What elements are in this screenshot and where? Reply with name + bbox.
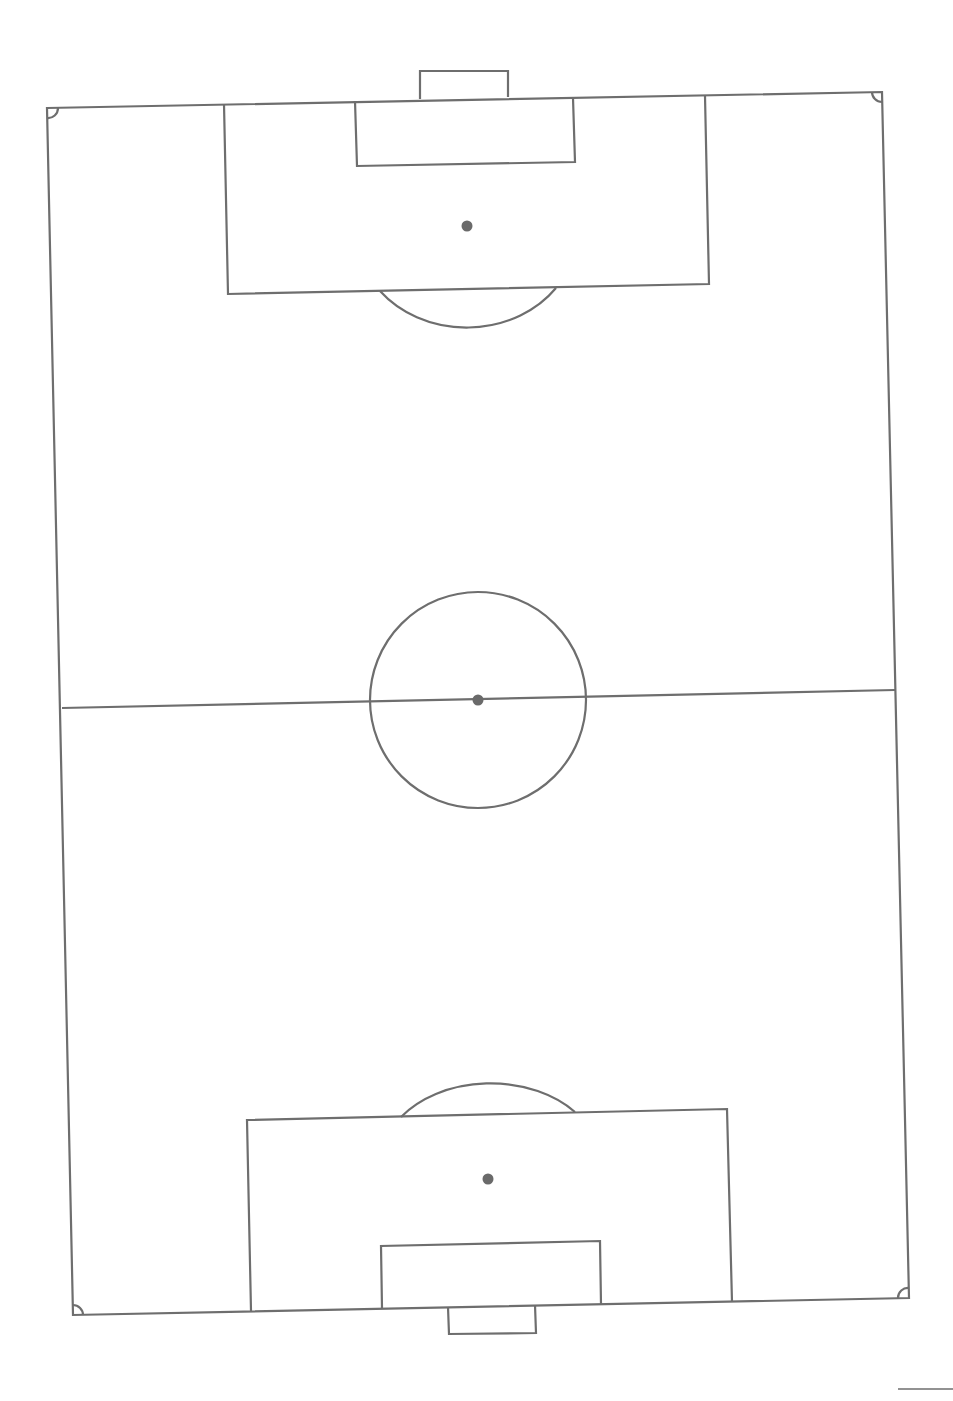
top-penalty-area <box>224 96 709 294</box>
bottom-goal-area <box>381 1241 601 1308</box>
corner-arc-bottom-left <box>73 1305 83 1315</box>
corner-arc-top-left <box>47 108 58 118</box>
bottom-penalty-arc <box>401 1083 575 1117</box>
bottom-penalty-area <box>247 1109 732 1311</box>
top-goal-area <box>355 98 575 166</box>
center-spot <box>473 695 484 706</box>
top-goal <box>420 71 508 99</box>
corner-arc-bottom-right <box>898 1288 909 1298</box>
bottom-penalty-spot <box>483 1174 494 1185</box>
bottom-goal <box>448 1305 536 1334</box>
top-penalty-spot <box>462 221 473 232</box>
corner-arc-top-right <box>872 92 882 102</box>
soccer-field <box>0 0 953 1401</box>
top-penalty-arc <box>380 288 556 328</box>
